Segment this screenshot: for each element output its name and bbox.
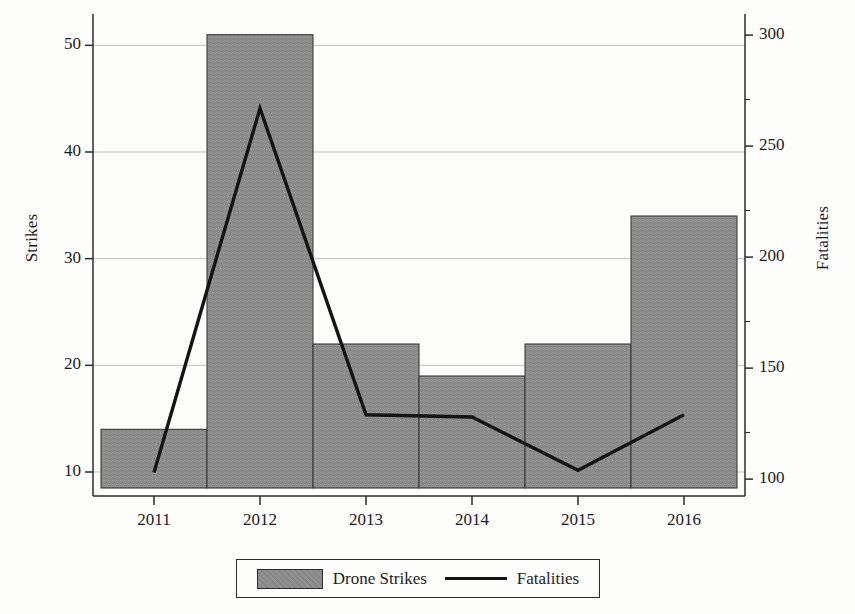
y-axis-left-tick: 20 <box>35 354 81 374</box>
x-axis-tick: 2012 <box>205 510 315 530</box>
legend-label-fatalities: Fatalities <box>517 569 579 589</box>
y-axis-left-tick: 50 <box>35 34 81 54</box>
x-axis-tick: 2014 <box>417 510 527 530</box>
y-axis-left-tick: 10 <box>35 461 81 481</box>
bar-series <box>101 35 737 488</box>
legend: Drone Strikes Fatalities <box>236 559 600 598</box>
y-axis-right-tick: 100 <box>759 468 819 488</box>
legend-label-drone-strikes: Drone Strikes <box>333 569 427 589</box>
y-axis-right-tick: 300 <box>759 24 819 44</box>
bar-swatch-icon <box>257 569 323 589</box>
y-axis-left-tick: 30 <box>35 248 81 268</box>
legend-item-fatalities: Fatalities <box>445 569 579 589</box>
x-axis-tick: 2013 <box>311 510 421 530</box>
line-swatch-icon <box>445 577 507 580</box>
y-axis-left-tick: 40 <box>35 141 81 161</box>
y-axis-right-tick: 250 <box>759 135 819 155</box>
chart-figure: Strikes Fatalities 1020304050 1001502002… <box>0 0 855 614</box>
y-axis-right-tick: 150 <box>759 357 819 377</box>
x-axis-tick: 2015 <box>523 510 633 530</box>
x-axis-tick: 2016 <box>629 510 739 530</box>
legend-item-drone-strikes: Drone Strikes <box>257 569 427 589</box>
x-axis-tick: 2011 <box>99 510 209 530</box>
y-axis-right-tick: 200 <box>759 246 819 266</box>
